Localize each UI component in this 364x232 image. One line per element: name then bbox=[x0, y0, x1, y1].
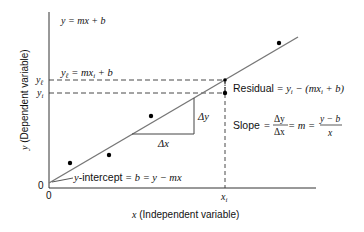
y-axis-label: y (Dependent variable) bbox=[19, 49, 30, 151]
origin-y-label: 0 bbox=[38, 180, 44, 191]
fitted-equation: yℓ = mxi + b bbox=[60, 67, 113, 80]
regression-line bbox=[49, 37, 298, 183]
delta-x-label: Δx bbox=[157, 138, 169, 149]
data-point bbox=[277, 41, 281, 45]
x-axis-label: x (Independent variable) bbox=[131, 209, 239, 220]
svg-text:Δx: Δx bbox=[274, 127, 285, 137]
x-i-tick-label: xi bbox=[220, 191, 227, 204]
y-i-tick-label: yi bbox=[36, 87, 43, 100]
data-point bbox=[107, 153, 111, 157]
delta-y-label: Δy bbox=[197, 111, 209, 122]
linear-regression-diagram: y = mx + b yℓ = mxi + b yℓ yi 0 0 xi x (… bbox=[0, 0, 364, 232]
intercept-annotation: y-intercept = b = y − mx bbox=[73, 171, 182, 183]
data-point bbox=[149, 114, 153, 118]
data-point bbox=[68, 161, 72, 165]
slope-annotation: Slope = Δy Δx = m = y − b x bbox=[233, 114, 342, 138]
y-l-tick-label: yℓ bbox=[35, 74, 43, 87]
svg-text:= m =: = m = bbox=[288, 120, 315, 131]
svg-text:=: = bbox=[264, 120, 270, 131]
svg-text:Slope: Slope bbox=[233, 119, 260, 131]
residual-annotation: Residual = yi − (mxi + b) bbox=[233, 82, 344, 96]
svg-text:y − b: y − b bbox=[319, 114, 340, 124]
residual-point-observed bbox=[223, 91, 227, 95]
line-equation: y = mx + b bbox=[60, 15, 106, 26]
residual-point-fitted bbox=[223, 78, 227, 82]
svg-text:x: x bbox=[327, 128, 333, 138]
svg-text:Δy: Δy bbox=[274, 114, 285, 124]
origin-x-label: 0 bbox=[46, 190, 52, 201]
